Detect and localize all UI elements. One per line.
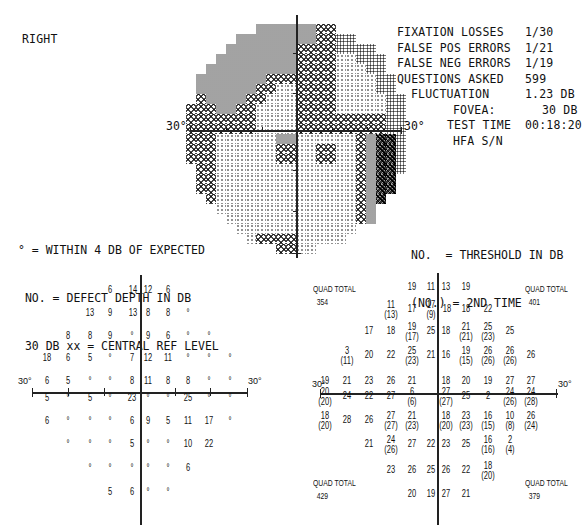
defect-value: 9 xyxy=(101,331,119,341)
threshold-value: 17 xyxy=(360,326,378,336)
defect-value: 6 xyxy=(159,285,177,295)
defect-value: 8 xyxy=(59,331,77,341)
defect-value: ° xyxy=(200,393,218,403)
defect-value: ° xyxy=(179,308,197,318)
threshold-value: 27 xyxy=(501,376,519,386)
threshold-value: 19 xyxy=(457,282,475,292)
defect-value: ° xyxy=(101,439,119,449)
threshold-value: 19(15) xyxy=(457,346,475,366)
defect-value: ° xyxy=(81,416,99,426)
threshold-value: 16(15) xyxy=(479,411,497,431)
defect-value: ° xyxy=(200,331,218,341)
defect-value: 5 xyxy=(38,393,56,403)
defect-value: ° xyxy=(221,393,239,403)
threshold-value: 20 xyxy=(403,489,421,499)
defect-value: 25 xyxy=(179,393,197,403)
threshold-value: 18 xyxy=(457,304,475,314)
defect-value: ° xyxy=(200,376,218,386)
threshold-value: 3(11) xyxy=(338,346,356,366)
threshold-value: 23 xyxy=(437,439,455,449)
threshold-value: 23(23) xyxy=(457,411,475,431)
threshold-value: 22 xyxy=(457,465,475,475)
threshold-value: 13 xyxy=(437,282,455,292)
threshold-value: 26 xyxy=(522,350,540,360)
legend-within: ° = WITHIN 4 DB OF EXPECTED xyxy=(18,242,219,258)
threshold-value: 16(16) xyxy=(479,435,497,455)
defect-value: ° xyxy=(159,463,177,473)
threshold-value: 25 xyxy=(457,391,475,401)
defect-value: ° xyxy=(179,353,197,363)
defect-value: ° xyxy=(139,487,157,497)
threshold-value: 26 xyxy=(437,465,455,475)
defect-value: 6 xyxy=(179,463,197,473)
defect-value: 6 xyxy=(101,285,119,295)
defect-value: ° xyxy=(101,353,119,363)
defect-value: 6 xyxy=(159,331,177,341)
threshold-value: 18 xyxy=(437,376,455,386)
threshold-label-right: 30° xyxy=(558,379,572,389)
defect-value: 8 xyxy=(81,331,99,341)
defect-value: 5 xyxy=(59,376,77,386)
defect-value: 11 xyxy=(179,416,197,426)
defect-value: ° xyxy=(101,376,119,386)
defect-value: ° xyxy=(139,463,157,473)
defect-value: ° xyxy=(200,353,218,363)
defect-value: ° xyxy=(101,416,119,426)
threshold-value: 21(23) xyxy=(403,411,421,431)
defect-value: ° xyxy=(81,463,99,473)
threshold-value: 23 xyxy=(360,376,378,386)
defect-value: ° xyxy=(59,439,77,449)
threshold-value: 24 xyxy=(338,391,356,401)
threshold-value: 26 xyxy=(403,465,421,475)
defect-value: 6 xyxy=(38,416,56,426)
defect-value: ° xyxy=(101,463,119,473)
threshold-value: 26 xyxy=(360,415,378,425)
threshold-value: 20(20) xyxy=(316,387,334,407)
defect-value: 13 xyxy=(81,308,99,318)
defect-value: ° xyxy=(139,393,157,403)
defect-value: ° xyxy=(59,416,77,426)
threshold-value: 24(26) xyxy=(382,435,400,455)
threshold-value: 26(26) xyxy=(501,346,519,366)
threshold-value: 26(26) xyxy=(479,346,497,366)
defect-value: 5 xyxy=(81,353,99,363)
defect-value: 9 xyxy=(139,331,157,341)
defect-value: 8 xyxy=(159,308,177,318)
threshold-value: 25(23) xyxy=(403,346,421,366)
threshold-value: 27 xyxy=(403,439,421,449)
threshold-value: 27 xyxy=(382,391,400,401)
defect-value: 17 xyxy=(200,416,218,426)
defect-value: ° xyxy=(139,439,157,449)
defect-value: ° xyxy=(179,331,197,341)
threshold-value: 21 xyxy=(403,376,421,386)
defect-value: ° xyxy=(221,416,239,426)
defect-value: 5 xyxy=(101,487,119,497)
threshold-value: 23 xyxy=(382,465,400,475)
threshold-value: 20 xyxy=(457,376,475,386)
threshold-value: 27 xyxy=(522,376,540,386)
threshold-value: 27(27) xyxy=(437,387,455,407)
defect-value: 5 xyxy=(81,393,99,403)
threshold-value: 21(21) xyxy=(457,322,475,342)
threshold-value: 19 xyxy=(316,376,334,386)
defect-value: 6 xyxy=(38,376,56,386)
threshold-value: 22 xyxy=(360,391,378,401)
threshold-value: 24(28) xyxy=(522,387,540,407)
threshold-value: 20 xyxy=(360,350,378,360)
defect-value: ° xyxy=(221,376,239,386)
threshold-value: 21 xyxy=(338,376,356,386)
threshold-value: 18 xyxy=(382,326,400,336)
quad-total: QUAD TOTAL 429 xyxy=(313,477,356,503)
defect-value: 10 xyxy=(179,439,197,449)
defect-value: 18 xyxy=(38,353,56,363)
defect-value: 9 xyxy=(139,416,157,426)
threshold-value: 21 xyxy=(360,439,378,449)
grayscale-label-left: 30° xyxy=(166,119,187,133)
threshold-value: 11(13) xyxy=(382,300,400,320)
defect-value: ° xyxy=(81,439,99,449)
threshold-value: 17 xyxy=(403,304,421,314)
threshold-value: 2 xyxy=(479,391,497,401)
defect-value: 9 xyxy=(101,308,119,318)
defect-value: ° xyxy=(159,439,177,449)
threshold-value: 22 xyxy=(479,304,497,314)
